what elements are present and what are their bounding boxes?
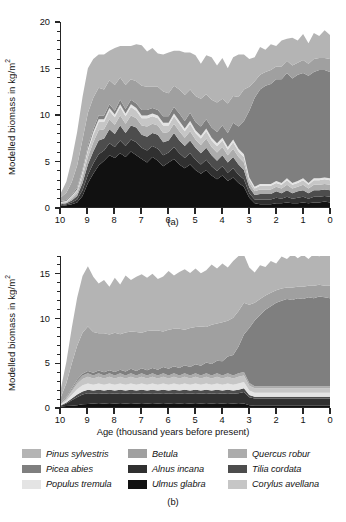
y-tick-minor: [57, 381, 60, 382]
y-tick-minor: [57, 291, 60, 292]
y-axis-label-a-text: Modelled biomass in kg/m: [6, 62, 17, 174]
legend-label-alnus: Alnus incana: [152, 464, 204, 474]
x-tick-major: [86, 208, 87, 214]
y-tick-minor: [57, 198, 60, 199]
legend-item-corylus: Corylus avellana: [228, 479, 332, 489]
legend-label-corylus: Corylus avellana: [252, 479, 319, 489]
y-axis-label-a-sup: 2: [4, 59, 11, 63]
y-tick-minor: [57, 300, 60, 301]
x-tick-label: 3: [239, 415, 259, 425]
y-tick-major: [55, 21, 61, 22]
legend-swatch-alnus: [128, 465, 147, 474]
legend: Pinus sylvestrisBetulaQuercus roburPicea…: [0, 446, 346, 496]
x-tick-label: 8: [104, 415, 124, 425]
x-tick-major: [329, 408, 330, 414]
plot-area-a: [60, 22, 330, 208]
y-tick-minor: [57, 372, 60, 373]
legend-item-betula: Betula: [128, 449, 228, 459]
x-tick-major: [86, 408, 87, 414]
stacked-area-chart-a: [61, 22, 330, 207]
x-tick-major: [59, 408, 60, 414]
legend-item-alnus: Alnus incana: [128, 464, 228, 474]
y-tick-minor: [57, 40, 60, 41]
x-tick-label: 9: [77, 415, 97, 425]
legend-swatch-quercus: [228, 449, 247, 458]
x-tick-major: [275, 408, 276, 414]
x-tick-label: 1: [293, 415, 313, 425]
y-tick-minor: [57, 390, 60, 391]
y-tick-major: [55, 363, 61, 364]
y-tick-label: 5: [24, 358, 50, 368]
y-tick-major: [55, 161, 61, 162]
y-tick-label: 0: [24, 403, 50, 413]
x-tick-major: [248, 408, 249, 414]
legend-item-quercus: Quercus robur: [228, 449, 332, 459]
y-tick-minor: [57, 96, 60, 97]
y-tick-minor: [57, 180, 60, 181]
y-tick-minor: [57, 189, 60, 190]
x-tick-major: [194, 408, 195, 414]
legend-label-picea: Picea abies: [46, 464, 93, 474]
y-tick-label: 0: [24, 203, 50, 213]
legend-swatch-picea: [22, 465, 41, 474]
y-tick-label: 15: [24, 64, 50, 74]
y-tick-minor: [57, 256, 60, 257]
y-tick-minor: [57, 327, 60, 328]
legend-item-picea: Picea abies: [22, 464, 128, 474]
legend-item-tilia: Tilia cordata: [228, 464, 332, 474]
y-tick-major: [55, 68, 61, 69]
legend-swatch-tilia: [228, 465, 247, 474]
y-tick-minor: [57, 399, 60, 400]
y-axis-label-b-sup: 2: [4, 275, 11, 279]
legend-label-pinus: Pinus sylvestris: [46, 449, 109, 459]
y-axis-label-b: Modelled biomass in kg/m2: [6, 262, 17, 404]
x-tick-label: 10: [50, 415, 70, 425]
panel-b: Modelled biomass in kg/m2 051015 1098765…: [0, 240, 346, 440]
y-tick-minor: [57, 152, 60, 153]
y-tick-major: [55, 273, 61, 274]
y-tick-minor: [57, 124, 60, 125]
y-tick-minor: [57, 282, 60, 283]
y-tick-minor: [57, 105, 60, 106]
x-tick-major: [221, 208, 222, 214]
y-tick-label: 10: [24, 110, 50, 120]
y-axis-label-a: Modelled biomass in kg/m2: [6, 34, 17, 199]
x-tick-label: 5: [185, 415, 205, 425]
y-tick-minor: [57, 170, 60, 171]
y-tick-major: [55, 114, 61, 115]
legend-label-tilia: Tilia cordata: [252, 464, 301, 474]
y-tick-label: 10: [24, 314, 50, 324]
y-tick-minor: [57, 31, 60, 32]
x-tick-major: [59, 208, 60, 214]
plot-area-b: [60, 256, 330, 408]
legend-item-pinus: Pinus sylvestris: [22, 449, 128, 459]
y-tick-minor: [57, 59, 60, 60]
legend-label-quercus: Quercus robur: [252, 449, 310, 459]
y-tick-minor: [57, 142, 60, 143]
y-tick-minor: [57, 77, 60, 78]
y-tick-minor: [57, 87, 60, 88]
x-tick-major: [221, 408, 222, 414]
panel-a: Modelled biomass in kg/m2 05101520 10987…: [0, 4, 346, 236]
y-tick-minor: [57, 345, 60, 346]
x-tick-major: [302, 208, 303, 214]
y-tick-minor: [57, 354, 60, 355]
y-axis-label-b-text: Modelled biomass in kg/m: [6, 279, 17, 391]
x-tick-major: [275, 208, 276, 214]
legend-label-betula: Betula: [152, 449, 178, 459]
y-tick-minor: [57, 309, 60, 310]
x-tick-major: [329, 208, 330, 214]
y-tick-major: [55, 318, 61, 319]
x-tick-major: [302, 408, 303, 414]
y-tick-minor: [57, 133, 60, 134]
legend-label-ulmus: Ulmus glabra: [152, 479, 206, 489]
legend-swatch-betula: [128, 449, 147, 458]
x-tick-major: [167, 208, 168, 214]
x-tick-major: [113, 408, 114, 414]
x-tick-label: 7: [131, 415, 151, 425]
x-tick-major: [113, 208, 114, 214]
y-tick-minor: [57, 336, 60, 337]
x-tick-major: [140, 408, 141, 414]
x-tick-label: 6: [158, 415, 178, 425]
legend-swatch-populus: [22, 480, 41, 489]
